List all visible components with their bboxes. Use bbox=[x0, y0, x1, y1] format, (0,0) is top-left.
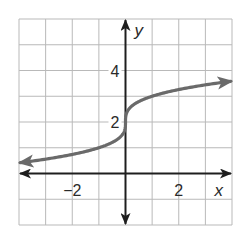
y-tick-label: 4 bbox=[111, 63, 120, 80]
x-tick-label: −2 bbox=[63, 182, 81, 199]
cube-root-graph: −2224 x y bbox=[0, 0, 245, 235]
y-tick-label: 2 bbox=[111, 114, 120, 131]
x-axis-label: x bbox=[213, 181, 223, 200]
x-tick-label: 2 bbox=[174, 182, 183, 199]
y-axis-label: y bbox=[134, 21, 145, 40]
